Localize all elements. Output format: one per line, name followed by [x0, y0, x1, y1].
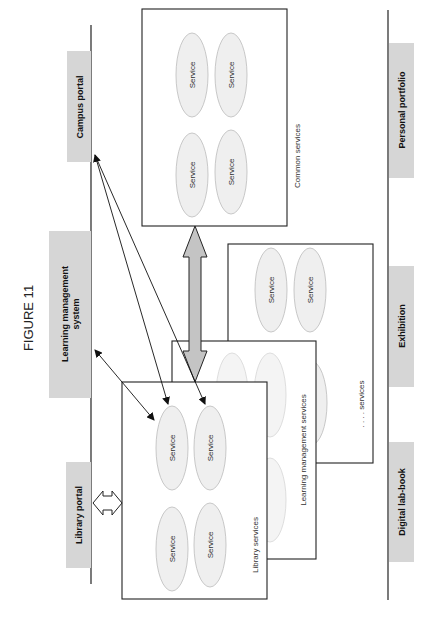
common-library-double-arrow [183, 226, 207, 382]
svg-text:Digital lab-book: Digital lab-book [397, 467, 407, 535]
svg-text:. . . . services: . . . . services [357, 380, 366, 427]
svg-text:Campus portal: Campus portal [75, 75, 85, 138]
figure-title: FIGURE 11 [21, 285, 36, 351]
library-services-box: Service Service Service Service Library … [122, 382, 267, 599]
svg-text:Library portal: Library portal [74, 486, 84, 544]
svg-text:Service: Service [188, 161, 197, 188]
portal-campus-portal: Campus portal [67, 51, 91, 162]
svg-text:Service: Service [267, 276, 276, 303]
diagram-canvas: FIGURE 11 Campus portal Learning managem… [0, 0, 431, 636]
portal-digital-lab-book: Digital lab-book [389, 442, 414, 562]
svg-text:Service: Service [206, 434, 215, 461]
portal-personal-portfolio: Personal portfolio [389, 43, 414, 178]
svg-text:Service: Service [188, 61, 197, 88]
svg-text:Learning management: Learning management [60, 266, 70, 362]
portal-learning-management-system: Learning management system [49, 231, 91, 398]
common-services-box: Service Service Service Service Common s… [142, 9, 302, 226]
svg-text:Learning management services: Learning management services [299, 394, 308, 506]
svg-text:Service: Service [168, 434, 177, 461]
svg-text:Service: Service [306, 276, 315, 303]
svg-text:Personal portfolio: Personal portfolio [397, 71, 407, 149]
svg-text:FIGURE 11: FIGURE 11 [21, 285, 36, 351]
svg-text:system: system [71, 298, 81, 329]
portal-library-portal: Library portal [66, 462, 91, 568]
svg-text:Library services: Library services [251, 517, 260, 573]
svg-text:Service: Service [168, 535, 177, 562]
svg-text:Service: Service [227, 61, 236, 88]
svg-text:Common services: Common services [293, 124, 302, 188]
library-portal-double-arrow [93, 491, 122, 515]
svg-text:Service: Service [206, 531, 215, 558]
svg-text:Exhibition: Exhibition [397, 304, 407, 348]
svg-text:Service: Service [227, 158, 236, 185]
portal-exhibition: Exhibition [389, 266, 414, 387]
